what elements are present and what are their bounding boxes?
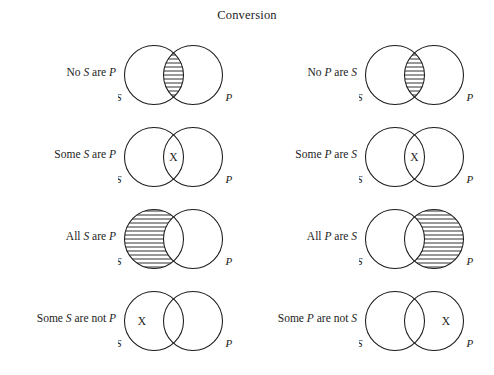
x-mark-right-only: X — [442, 315, 451, 327]
proposition-cell: All P are SSP — [247, 200, 494, 280]
shaded-region-overlap — [118, 41, 240, 115]
venn-container: XSP — [359, 287, 481, 361]
diagram-row: Some S are PXSPSome P are SXSP — [0, 118, 494, 198]
set-label-p: P — [225, 255, 233, 267]
x-mark-left-only: X — [138, 315, 147, 327]
circle-p — [164, 292, 223, 351]
set-label-s: S — [359, 173, 363, 185]
proposition-label: Some S are P — [8, 147, 116, 161]
x-mark-overlap: X — [169, 151, 178, 163]
conversion-figure: Conversion No S are PSPNo P are SSP Some… — [0, 0, 494, 375]
venn-container: XSP — [118, 123, 240, 197]
set-label-s: S — [359, 337, 363, 349]
set-label-p: P — [466, 173, 474, 185]
venn-container: XSP — [359, 123, 481, 197]
set-label-p: P — [225, 173, 233, 185]
proposition-cell: Some P are SXSP — [247, 118, 494, 198]
proposition-cell: No P are SSP — [247, 36, 494, 116]
proposition-cell: Some S are PXSP — [0, 118, 247, 198]
circle-s — [125, 292, 184, 351]
venn-diagram-0-right: SP — [359, 41, 481, 115]
proposition-label: Some P are S — [249, 147, 357, 161]
shaded-region-right-only — [359, 205, 481, 279]
figure-title: Conversion — [0, 8, 494, 23]
venn-diagram-3-left: XSP — [118, 287, 240, 361]
set-label-p: P — [466, 337, 474, 349]
venn-container: SP — [118, 41, 240, 115]
set-label-p: P — [466, 91, 474, 103]
proposition-label: No P are S — [249, 65, 357, 79]
shaded-region-overlap — [359, 41, 481, 115]
set-label-p: P — [466, 255, 474, 267]
circle-s — [366, 292, 425, 351]
shaded-region-left-only — [118, 205, 240, 279]
set-label-s: S — [359, 91, 363, 103]
diagram-row: No S are PSPNo P are SSP — [0, 36, 494, 116]
proposition-cell: No S are PSP — [0, 36, 247, 116]
x-mark-overlap: X — [410, 151, 419, 163]
venn-container: XSP — [118, 287, 240, 361]
proposition-label: No S are P — [8, 65, 116, 79]
proposition-label: Some S are not P — [8, 311, 116, 325]
venn-diagram-2-left: SP — [118, 205, 240, 279]
venn-container: SP — [359, 41, 481, 115]
set-label-s: S — [118, 337, 122, 349]
venn-diagram-3-right: XSP — [359, 287, 481, 361]
venn-container: SP — [359, 205, 481, 279]
set-label-s: S — [118, 91, 122, 103]
diagram-row: All S are PSPAll P are SSP — [0, 200, 494, 280]
set-label-p: P — [225, 91, 233, 103]
proposition-label: Some P are not S — [249, 311, 357, 325]
set-label-s: S — [359, 255, 363, 267]
proposition-label: All P are S — [249, 229, 357, 243]
set-label-s: S — [118, 255, 122, 267]
diagram-row: Some S are not PXSPSome P are not SXSP — [0, 282, 494, 362]
proposition-cell: Some P are not SXSP — [247, 282, 494, 362]
proposition-label: All S are P — [8, 229, 116, 243]
set-label-s: S — [118, 173, 122, 185]
venn-diagram-2-right: SP — [359, 205, 481, 279]
venn-diagram-1-left: XSP — [118, 123, 240, 197]
proposition-cell: Some S are not PXSP — [0, 282, 247, 362]
venn-diagram-0-left: SP — [118, 41, 240, 115]
venn-diagram-1-right: XSP — [359, 123, 481, 197]
venn-container: SP — [118, 205, 240, 279]
proposition-cell: All S are PSP — [0, 200, 247, 280]
set-label-p: P — [225, 337, 233, 349]
circle-p — [405, 292, 464, 351]
